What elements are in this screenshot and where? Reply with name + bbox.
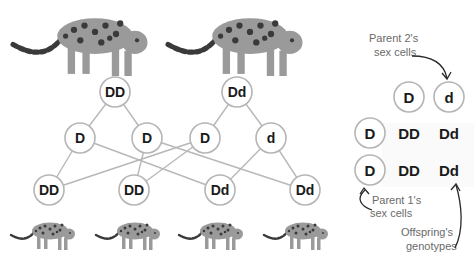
punnett-cell: DD [398,125,420,142]
offspring-node-label: Dd [296,182,315,198]
parent2-allele-2: d [434,82,464,112]
offspring-annotation-line2: genotypes [406,240,457,252]
parent-node-label: DD [105,84,125,100]
offspring-node-3: Dd [205,175,235,205]
parent2-annotation-line2: sex cells [374,46,417,58]
parent2-allele-2-label: d [444,89,453,106]
gamete-node-3: D [190,123,220,153]
jaguar-cub-1-image [11,223,75,251]
gamete-node-4: d [256,123,286,153]
gamete-node-label: d [267,130,276,146]
jaguar-parent-2-image [168,18,302,76]
arrow-icon [412,56,447,78]
offspring-node-4: Dd [290,175,320,205]
jaguar-parent-1-image [13,18,147,76]
parent2-allele-1-label: D [404,89,415,106]
punnett-square: D d D D DD Dd DD Dd [355,82,474,187]
parent2-allele-1: D [394,82,424,112]
parent1-allele-2-label: D [365,162,376,179]
genetics-diagram: DDDdDDDdDDDDDdDd D d D D DD Dd DD Dd Par… [0,0,474,261]
parent1-annotation-line1: Parent 1's [372,194,422,206]
parent-node-1: DD [100,77,130,107]
gamete-node-label: D [142,130,152,146]
punnett-cell: Dd [439,125,459,142]
punnett-cell: Dd [439,162,459,179]
gamete-node-label: D [75,130,85,146]
jaguar-cub-3-image [179,223,243,251]
offspring-node-label: Dd [211,182,230,198]
jaguar-cub-2-image [96,223,160,251]
gamete-node-1: D [65,123,95,153]
parent1-annotation-line2: sex cells [370,207,413,219]
offspring-node-label: DD [39,182,59,198]
offspring-annotation-line1: Offspring's [401,226,454,238]
arrow-icon [455,185,461,248]
jaguar-cub-4-image [264,223,328,251]
parent2-annotation: Parent 2's sex cells [369,32,451,79]
parent1-annotation: Parent 1's sex cells [360,188,422,219]
parent-node-label: Dd [228,84,247,100]
parent1-allele-2: D [355,155,385,185]
parent1-allele-1-label: D [365,125,376,142]
parent-node-2: Dd [222,77,252,107]
offspring-node-1: DD [34,175,64,205]
offspring-node-2: DD [119,175,149,205]
parent1-allele-1: D [355,118,385,148]
offspring-node-label: DD [124,182,144,198]
tree-nodes: DDDdDDDdDDDDDdDd [34,77,320,205]
gamete-node-label: D [200,130,210,146]
punnett-cell: DD [398,162,420,179]
parent2-annotation-line1: Parent 2's [369,32,419,44]
punnett-background [382,123,474,187]
gamete-node-2: D [132,123,162,153]
